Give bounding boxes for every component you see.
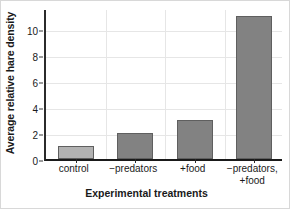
gridline-vertical bbox=[165, 10, 166, 159]
y-axis-tick-mark bbox=[39, 161, 43, 162]
gridline-vertical bbox=[106, 10, 107, 159]
x-axis-category-label: −predators bbox=[104, 163, 164, 175]
y-axis-tick-mark bbox=[39, 56, 43, 57]
plot-inner bbox=[46, 10, 282, 159]
y-axis-tick-mark bbox=[39, 82, 43, 83]
y-axis-title-text: Average relative hare density bbox=[4, 11, 16, 154]
bar bbox=[177, 120, 213, 159]
x-axis-category-label: control bbox=[44, 163, 104, 175]
y-axis-tick-label: 0 bbox=[32, 156, 38, 167]
y-axis-tick-mark bbox=[39, 134, 43, 135]
bar bbox=[117, 133, 153, 159]
y-axis-tick-labels: 0246810 bbox=[19, 1, 43, 209]
gridline-vertical bbox=[225, 10, 226, 159]
x-axis-title: Experimental treatments bbox=[44, 187, 249, 199]
y-axis-tick-mark bbox=[39, 108, 43, 109]
x-axis-category-label: +food bbox=[163, 163, 223, 175]
y-axis-tick-label: 6 bbox=[32, 77, 38, 88]
y-axis-title: Average relative hare density bbox=[1, 1, 19, 164]
y-axis-tick-label: 8 bbox=[32, 51, 38, 62]
plot-area bbox=[44, 10, 282, 161]
bar bbox=[236, 16, 272, 159]
bar bbox=[58, 146, 94, 159]
y-axis-tick-label: 10 bbox=[27, 25, 38, 36]
x-axis-category-label: −predators, +food bbox=[223, 163, 283, 186]
bar-chart-figure: Average relative hare density 0246810 co… bbox=[0, 0, 290, 209]
y-axis-tick-label: 2 bbox=[32, 129, 38, 140]
y-axis-tick-label: 4 bbox=[32, 103, 38, 114]
y-axis-tick-mark bbox=[39, 30, 43, 31]
